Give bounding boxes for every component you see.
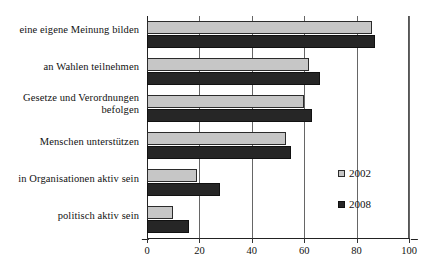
- bar-2002-1: [147, 58, 309, 72]
- gridline: [199, 16, 200, 238]
- category-axis-labels: eine eigene Meinung bilden an Wahlen tei…: [0, 16, 144, 238]
- x-tick: [199, 238, 200, 243]
- legend: 2002 2008: [338, 166, 404, 228]
- category-label: an Wahlen teilnehmen: [0, 61, 139, 73]
- gridline: [252, 16, 253, 238]
- gridline: [409, 16, 410, 238]
- category-label: eine eigene Meinung bilden: [0, 24, 139, 36]
- bar-2008-5: [147, 220, 189, 234]
- legend-swatch-icon: [338, 170, 345, 177]
- x-tick: [357, 238, 358, 243]
- legend-item-2008[interactable]: 2008: [338, 197, 404, 211]
- category-label: Menschen unterstützen: [0, 136, 139, 148]
- category-label: politisch aktiv sein: [0, 210, 139, 222]
- x-tick: [252, 238, 253, 243]
- bar-2008-4: [147, 183, 220, 197]
- x-tick-label: 80: [351, 245, 362, 257]
- legend-swatch-icon: [338, 201, 345, 208]
- bar-chart: eine eigene Meinung bilden an Wahlen tei…: [0, 0, 429, 268]
- x-axis-line: [147, 238, 409, 239]
- bar-2008-3: [147, 146, 291, 160]
- category-label-line: Gesetze und Verordnungen: [0, 92, 139, 104]
- bar-2002-0: [147, 21, 372, 35]
- category-label: in Organisationen aktiv sein: [0, 173, 139, 185]
- category-label-line: eine eigene Meinung bilden: [0, 24, 139, 36]
- category-label: Gesetze und Verordnungen befolgen: [0, 92, 139, 116]
- bar-2008-2: [147, 109, 312, 123]
- category-label-line: Menschen unterstützen: [0, 136, 139, 148]
- bar-2008-0: [147, 35, 375, 49]
- category-label-line: politisch aktiv sein: [0, 210, 139, 222]
- bar-2002-3: [147, 132, 286, 146]
- category-label-line: befolgen: [0, 104, 139, 116]
- x-tick-label: 40: [247, 245, 258, 257]
- gridline: [304, 16, 305, 238]
- category-label-line: in Organisationen aktiv sein: [0, 173, 139, 185]
- x-tick-label: 0: [144, 245, 149, 257]
- category-label-line: an Wahlen teilnehmen: [0, 61, 139, 73]
- bar-2002-5: [147, 206, 173, 220]
- x-tick: [304, 238, 305, 243]
- bar-2002-2: [147, 95, 304, 109]
- legend-item-2002[interactable]: 2002: [338, 166, 404, 180]
- legend-label: 2008: [349, 198, 371, 210]
- legend-label: 2002: [349, 167, 371, 179]
- x-tick-label: 20: [194, 245, 205, 257]
- x-tick: [147, 238, 148, 243]
- x-tick-label: 100: [401, 245, 417, 257]
- x-tick-label: 60: [299, 245, 310, 257]
- bar-2002-4: [147, 169, 197, 183]
- bar-2008-1: [147, 72, 320, 86]
- x-tick: [409, 238, 410, 243]
